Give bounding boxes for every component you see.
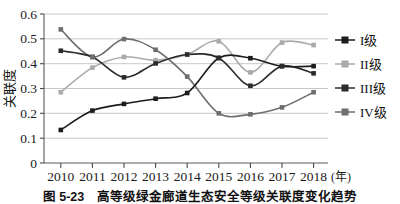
data-point-marker [122,102,127,107]
data-point-marker [248,112,253,117]
y-tick-label: 0 [30,156,37,171]
data-point-marker [153,96,158,101]
data-point-marker [90,65,95,70]
data-point-marker [122,55,127,60]
x-axis-unit-label: (年) [331,170,351,184]
data-point-marker [248,83,253,88]
data-point-marker [248,56,253,61]
x-tick-label: 2013 [142,169,169,184]
x-tick-label: 2010 [47,169,74,184]
y-tick-label: 0.1 [20,131,37,146]
legend-label: II级 [360,57,382,72]
data-point-marker [217,56,222,61]
data-point-marker [311,43,316,48]
data-point-marker [122,75,127,80]
legend-label: III级 [360,81,386,96]
data-point-marker [311,64,316,69]
data-point-marker [311,71,316,76]
y-tick-label: 0.5 [20,31,37,46]
x-tick-label: 2011 [79,169,106,184]
data-point-marker [185,91,190,96]
data-point-marker [280,64,285,69]
data-point-marker [153,47,158,52]
y-tick-label: 0.6 [20,7,37,22]
x-tick-label: 2012 [111,169,138,184]
x-tick-label: 2018 [300,169,327,184]
relevance-line-chart: 0.6 0.5 0.4 0.3 0.2 0.1 0 关联度 2010 2011 … [0,0,400,204]
data-point-marker [59,128,64,133]
data-point-marker [90,55,95,60]
y-tick-label: 0.4 [20,56,37,71]
data-point-marker [248,70,253,75]
x-tick-label: 2015 [205,169,232,184]
y-axis-title: 关联度 [2,69,17,108]
y-tick-label: 0.3 [20,81,37,96]
legend-marker-square [342,85,349,92]
data-point-marker [59,90,64,95]
legend-marker-square [342,61,349,68]
x-tick-label: 2014 [174,169,201,184]
data-point-marker [280,105,285,110]
data-point-marker [217,39,222,44]
figure-caption: 图 5-23 高等级绿金廊道生态安全等级关联度变化趋势 [43,189,358,204]
data-point-marker [122,37,127,42]
data-point-marker [280,40,285,45]
x-tick-label: 2017 [269,169,296,184]
data-point-marker [59,48,64,53]
legend-marker-square [342,109,349,116]
data-point-marker [185,52,190,57]
data-point-marker [90,108,95,113]
legend-marker-square [342,37,349,44]
data-point-marker [217,111,222,116]
data-point-marker [59,27,64,32]
data-point-marker [153,61,158,66]
y-tick-label: 0.2 [20,106,37,121]
legend-label: I级 [360,33,377,48]
data-point-marker [185,74,190,79]
legend-label: IV级 [360,105,387,120]
x-tick-label: 2016 [237,169,264,184]
x-axis-tick-labels: 2010 2011 2012 2013 2014 2015 2016 2017 … [47,169,327,184]
data-point-marker [311,90,316,95]
